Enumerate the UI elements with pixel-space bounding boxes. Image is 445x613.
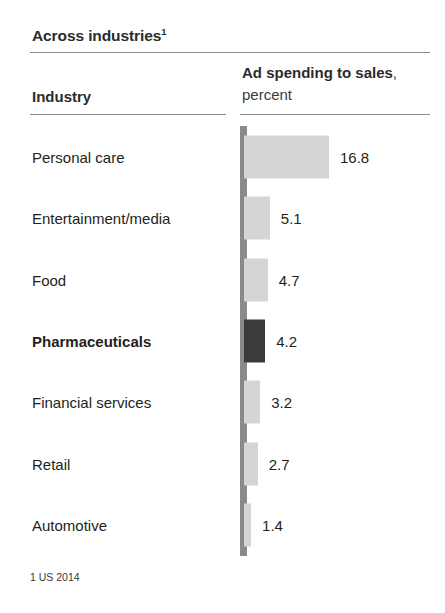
category-label: Personal care: [32, 148, 125, 165]
bar-value-label: 4.7: [279, 271, 300, 288]
chart-row: Retail2.7: [0, 433, 445, 494]
column-header-industry: Industry: [32, 88, 91, 105]
category-label: Food: [32, 271, 66, 288]
chart-title-text: Across industries: [32, 27, 161, 44]
chart-figure: Across industries1 Industry Ad spending …: [0, 0, 445, 613]
bar: [244, 442, 258, 485]
footnote-marker: 1: [161, 26, 166, 37]
bar-value-label: 5.1: [281, 210, 302, 227]
category-label: Automotive: [32, 517, 107, 534]
category-label: Retail: [32, 455, 70, 472]
bar: [244, 381, 260, 424]
bar: [244, 504, 251, 547]
bar-value-label: 3.2: [271, 394, 292, 411]
bar: [244, 197, 270, 240]
chart-row: Entertainment/media5.1: [0, 187, 445, 248]
header-rule-metric: [240, 114, 430, 115]
bar-value-label: 2.7: [269, 455, 290, 472]
chart-row: Personal care16.8: [0, 126, 445, 187]
category-label: Financial services: [32, 394, 151, 411]
chart-title: Across industries1: [32, 27, 166, 45]
bar-value-label: 1.4: [262, 517, 283, 534]
header-rule-top: [30, 52, 430, 53]
chart-footnote: 1 US 2014: [30, 571, 80, 583]
column-header-metric-bold: Ad spending to sales: [242, 64, 393, 81]
header-rule-industry: [30, 114, 226, 115]
bar-value-label: 4.2: [276, 332, 297, 349]
bar-rows: Personal care16.8Entertainment/media5.1F…: [0, 126, 445, 556]
bar-value-label: 16.8: [340, 148, 369, 165]
chart-row: Food4.7: [0, 249, 445, 310]
column-header-metric: Ad spending to sales, percent: [242, 62, 432, 106]
bar: [244, 319, 265, 362]
bar: [244, 135, 329, 178]
category-label: Pharmaceuticals: [32, 332, 151, 349]
chart-row: Financial services3.2: [0, 372, 445, 433]
bar: [244, 258, 268, 301]
chart-row: Automotive1.4: [0, 495, 445, 556]
category-label: Entertainment/media: [32, 210, 170, 227]
chart-row: Pharmaceuticals4.2: [0, 310, 445, 371]
